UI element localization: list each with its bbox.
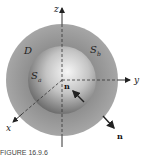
outer-normal-arrow: [103, 116, 114, 128]
region-label: D: [23, 45, 32, 56]
shell-region-diagram: z y x D S b S a n n: [0, 0, 148, 155]
x-axis-label: x: [6, 123, 11, 133]
x-axis-solid: [13, 114, 22, 122]
z-axis-label: z: [53, 4, 59, 14]
outer-normal-label: n: [117, 131, 123, 141]
figure-caption: FIGURE 16.9.6: [0, 149, 148, 155]
svg-text:S: S: [90, 44, 97, 55]
svg-text:S: S: [31, 70, 38, 81]
svg-text:b: b: [97, 50, 101, 57]
inner-normal-label: n: [64, 81, 70, 91]
svg-text:a: a: [38, 76, 42, 83]
y-axis-label: y: [133, 75, 140, 85]
